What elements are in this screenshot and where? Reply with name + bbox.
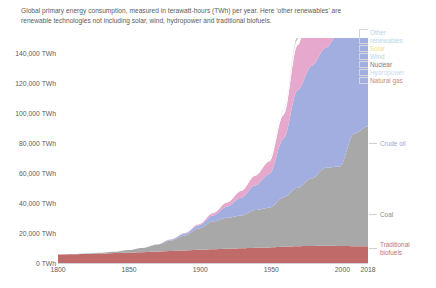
chart-subtitle: Global primary energy consumption, measu…: [21, 6, 351, 25]
legend-bracket-icon: [359, 45, 368, 53]
chart-root: Global primary energy consumption, measu…: [0, 0, 436, 288]
plot-area: [58, 38, 368, 263]
annotation-leader-line: [369, 143, 377, 144]
legend-bracket-icon: [359, 61, 368, 69]
legend-item: Other renewables: [370, 29, 418, 44]
legend-item-label: Solar: [370, 45, 385, 52]
x-axis-tick: 2018: [360, 266, 375, 273]
legend-item-label: Nuclear: [370, 61, 392, 68]
x-axis-tick: 1900: [193, 266, 208, 273]
legend-bracket-icon: [359, 77, 368, 85]
legend-item: Wind: [370, 53, 436, 61]
legend-item: Natural gas: [370, 77, 436, 85]
legend-item-label: Hydropower: [370, 69, 404, 76]
series-annotation-label: Traditional biofuels: [380, 241, 422, 256]
legend-bracket-icon: [359, 29, 368, 44]
annotation-leader-line: [369, 248, 377, 249]
legend-item: Nuclear: [370, 61, 436, 69]
series-annotation-label: Coal: [380, 211, 393, 219]
y-axis-tick: 40,000 TWh: [19, 200, 56, 207]
stacked-area-svg: [58, 38, 368, 263]
x-axis-tick: 1950: [264, 266, 279, 273]
y-axis-tick: 100,000 TWh: [15, 110, 56, 117]
x-axis-tick: 1800: [50, 266, 65, 273]
y-axis-tick: 20,000 TWh: [19, 230, 56, 237]
legend-bracket-icon: [359, 69, 368, 77]
y-axis-tick: 120,000 TWh: [15, 80, 56, 87]
legend-item-label: Other renewables: [370, 29, 403, 44]
annotation-leader-line: [369, 214, 377, 215]
y-axis-tick: 140,000 TWh: [15, 50, 56, 57]
y-axis-tick: 60,000 TWh: [19, 170, 56, 177]
x-axis-tick: 1850: [122, 266, 137, 273]
chart-legend: Other renewablesSolarWindNuclearHydropow…: [370, 29, 436, 85]
legend-item-label: Wind: [370, 53, 385, 60]
series-annotation-label: Crude oil: [380, 140, 406, 148]
legend-item: Hydropower: [370, 69, 436, 77]
legend-item: Solar: [370, 45, 436, 53]
y-axis-tick: 80,000 TWh: [19, 140, 56, 147]
y-axis: 0 TWh20,000 TWh40,000 TWh60,000 TWh80,00…: [0, 38, 56, 263]
legend-bracket-icon: [359, 53, 368, 61]
x-axis-tick: 2000: [335, 266, 350, 273]
x-axis: 180018501900195020002018: [58, 264, 368, 278]
legend-item-label: Natural gas: [370, 77, 403, 84]
x-axis-line: [58, 263, 368, 264]
